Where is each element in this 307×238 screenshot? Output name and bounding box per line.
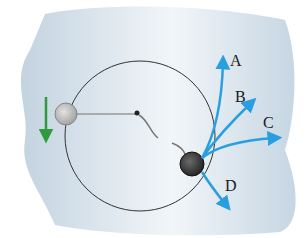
center-pivot (135, 111, 140, 116)
label-c: C (263, 114, 274, 132)
diagram-canvas (0, 0, 307, 238)
label-a: A (230, 52, 242, 70)
ball-left (55, 103, 77, 125)
label-b: B (235, 88, 246, 106)
label-d: D (225, 177, 237, 195)
ball-right (180, 152, 204, 176)
